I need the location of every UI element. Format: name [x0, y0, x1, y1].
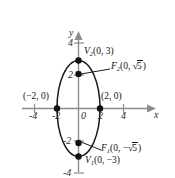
- label-focus-top-subscript: 2: [117, 65, 120, 72]
- leader-line-focus-top: [81, 69, 110, 74]
- label-vertex-top: V2(0, 3): [84, 47, 114, 57]
- point-vertex-top: [75, 57, 81, 63]
- label-vertex-bottom-subscript: 1: [91, 159, 94, 166]
- x-tick-label--2: -2: [52, 111, 60, 121]
- label-focus-bottom-coords-suffix: ): [138, 143, 141, 153]
- label-vertex-top-subscript: 2: [90, 50, 93, 57]
- label-focus-top-coords-suffix: ): [143, 61, 146, 71]
- y-tick-label--4: -4: [63, 168, 71, 178]
- x-tick-label-2: 2: [98, 111, 103, 121]
- y-tick-label--2: -2: [63, 136, 71, 146]
- label-vertex-top-symbol: V: [84, 46, 90, 56]
- x-axis-label: x: [154, 110, 158, 120]
- label-right-intercept: (2, 0): [101, 92, 122, 102]
- y-tick-label-4: 4: [68, 38, 73, 48]
- point-vertex-bottom: [75, 153, 81, 159]
- label-left-intercept: (−2, 0): [23, 92, 49, 102]
- label-focus-bottom: F1(0, −√5): [101, 144, 141, 154]
- sqrt-icon-focus-top: √5: [133, 62, 143, 72]
- sqrt-icon-focus-bottom: √5: [128, 144, 138, 154]
- label-focus-bottom-symbol: F: [101, 143, 107, 153]
- label-focus-top-symbol: F: [111, 61, 117, 71]
- label-vertex-top-coords: (0, 3): [93, 46, 114, 56]
- label-focus-top: F2(0, √5): [111, 62, 146, 72]
- y-tick-label-2: 2: [68, 70, 73, 80]
- label-focus-bottom-subscript: 1: [107, 147, 110, 154]
- ellipse-graph-figure: y x 0 -4 -2 2 4 4 2 -2 -4 V2(0, 3) F2(0,…: [0, 0, 175, 178]
- label-vertex-bottom: V1(0, −3): [85, 156, 120, 166]
- label-vertex-bottom-coords: (0, −3): [94, 155, 120, 165]
- label-vertex-bottom-symbol: V: [85, 155, 91, 165]
- y-axis-arrowhead: [75, 31, 83, 40]
- label-focus-bottom-coords-prefix: (0, −: [110, 143, 128, 153]
- plot-canvas: [0, 0, 175, 178]
- label-focus-top-coords-prefix: (0,: [120, 61, 133, 71]
- origin-label: 0: [81, 111, 86, 121]
- point-focus-top: [75, 71, 81, 77]
- point-focus-bottom: [75, 140, 81, 146]
- x-tick-label--4: -4: [29, 111, 37, 121]
- x-tick-label-4: 4: [121, 111, 126, 121]
